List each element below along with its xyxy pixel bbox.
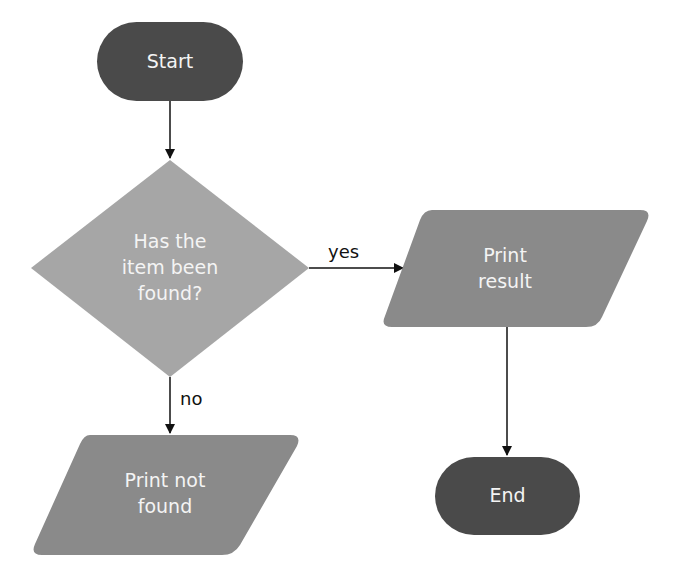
print-not-found-label: Print not found — [100, 467, 230, 519]
edge-label-no: no — [180, 388, 202, 409]
decision-label: Has the item been found? — [90, 228, 250, 306]
flowchart-canvas: Start Has the item been found? Print res… — [0, 0, 682, 579]
end-label: End — [435, 482, 580, 508]
edge-label-yes: yes — [328, 241, 359, 262]
start-label: Start — [97, 48, 243, 74]
print-result-label: Print result — [440, 242, 570, 294]
